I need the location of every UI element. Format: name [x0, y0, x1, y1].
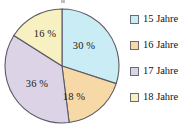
legend-item-16-jahre[interactable]: 16 Jahre [130, 40, 194, 50]
legend-swatch-icon-15-jahre [130, 15, 139, 24]
legend-label-18-jahre: 18 Jahre [143, 92, 178, 102]
pie-chart-figure: 30 % 18 % 36 % 16 % 15 Jahre 16 Jahre 17… [0, 0, 194, 128]
chart-legend: 15 Jahre 16 Jahre 17 Jahre 18 Jahre [130, 14, 194, 126]
pie-slice-label-16-jahre: 18 % [63, 91, 85, 102]
legend-item-15-jahre[interactable]: 15 Jahre [130, 14, 194, 24]
legend-label-16-jahre: 16 Jahre [143, 40, 178, 50]
pie-chart-area: 30 % 18 % 36 % 16 % [4, 6, 122, 126]
legend-swatch-icon-18-jahre [130, 93, 139, 102]
legend-item-17-jahre[interactable]: 17 Jahre [130, 66, 194, 76]
pie-chart-svg: 30 % 18 % 36 % 16 % [4, 6, 122, 126]
pie-slice-label-17-jahre: 36 % [26, 78, 48, 89]
legend-item-18-jahre[interactable]: 18 Jahre [130, 92, 194, 102]
pie-slice-label-15-jahre: 30 % [73, 40, 95, 51]
scan-artifact-mark [61, 0, 65, 3]
legend-label-17-jahre: 17 Jahre [143, 66, 178, 76]
pie-slice-label-18-jahre: 16 % [34, 28, 56, 39]
legend-swatch-icon-17-jahre [130, 67, 139, 76]
legend-swatch-icon-16-jahre [130, 41, 139, 50]
legend-label-15-jahre: 15 Jahre [143, 14, 178, 24]
pie-slices [5, 9, 119, 123]
